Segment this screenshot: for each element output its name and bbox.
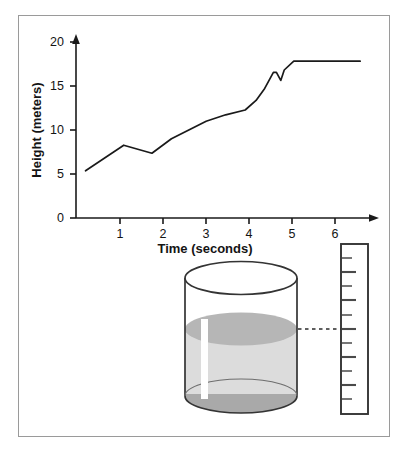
y-tick-label-0: 0: [57, 211, 64, 225]
y-axis: [72, 34, 80, 218]
y-axis-title: Height (meters): [29, 82, 44, 177]
y-tick-label-5: 5: [57, 167, 64, 181]
y-axis-ticks: [70, 42, 76, 218]
cylinder-rim-ellipse: [185, 262, 297, 295]
line-chart: 0 5 10 15 20 1 2 3 4 5 6 Height (meters): [19, 16, 391, 241]
x-axis: [76, 214, 379, 222]
x-axis-ticks: [120, 218, 335, 224]
data-series-line: [86, 61, 361, 171]
y-tick-label-10: 10: [50, 123, 64, 137]
diagram-svg: [19, 231, 391, 436]
figure-frame: 0 5 10 15 20 1 2 3 4 5 6 Height (meters): [18, 15, 390, 437]
y-tick-label-15: 15: [50, 79, 64, 93]
chart-svg: 0 5 10 15 20 1 2 3 4 5 6 Height (meters): [19, 16, 391, 241]
apparatus-diagram: [19, 231, 391, 436]
glass-highlight-strip: [201, 319, 208, 399]
y-tick-label-20: 20: [50, 35, 64, 49]
